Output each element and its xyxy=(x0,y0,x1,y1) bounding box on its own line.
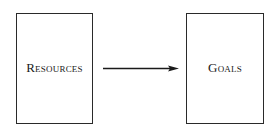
goals-label: Goals xyxy=(208,60,242,76)
goals-node: Goals xyxy=(186,13,264,124)
